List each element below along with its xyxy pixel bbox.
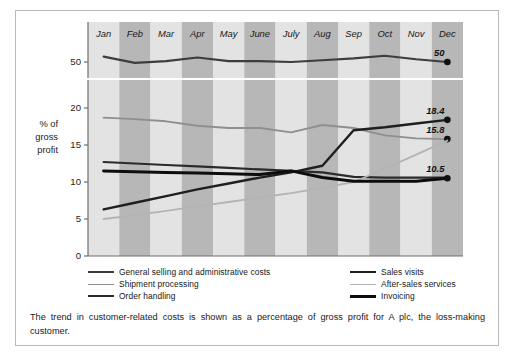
month-label-dec: Dec: [439, 28, 456, 39]
legend-item-order-handling: Order handling: [88, 290, 350, 302]
month-label-july: July: [282, 28, 301, 39]
month-band-main: [151, 80, 182, 256]
legend-swatch-line-icon: [88, 295, 114, 297]
series-endpoint-general-selling-and-administrative-costs: [444, 59, 451, 66]
y-tick-label-5: 5: [76, 213, 81, 224]
y-tick-label-50: 50: [70, 56, 81, 67]
y-tick-label-10: 10: [70, 176, 81, 187]
y-axis-title-line-2: gross: [35, 132, 58, 142]
y-axis-ticks: 5020151050: [70, 56, 88, 261]
legend-swatch-line-icon: [88, 271, 114, 273]
series-end-label-sales-visits: 18.4: [426, 105, 445, 116]
month-band-main: [276, 80, 307, 256]
legend-label: After-sales services: [381, 278, 456, 290]
legend-swatch-line-icon: [350, 284, 376, 285]
legend-item-after-sales-services: After-sales services: [350, 278, 468, 290]
y-tick-label-20: 20: [70, 102, 81, 113]
legend-swatch-line-icon: [350, 271, 376, 273]
legend-swatch-line-icon: [350, 295, 376, 298]
month-bands: [88, 22, 463, 256]
series-end-label-shipment-processing: 15.8: [426, 124, 445, 135]
month-label-mar: Mar: [158, 28, 175, 39]
month-label-may: May: [220, 28, 239, 39]
series-endpoint-invoicing: [444, 175, 451, 182]
month-label-nov: Nov: [408, 28, 426, 39]
legend-label: Shipment processing: [119, 278, 199, 290]
month-label-sep: Sep: [345, 28, 362, 39]
legend-item-sales-visits: Sales visits: [350, 266, 468, 278]
series-end-label-invoicing: 10.5: [426, 163, 445, 174]
legend-item-invoicing: Invoicing: [350, 290, 468, 302]
figure-root: JanFebMarAprMayJuneJulyAugSepOctNovDec50…: [0, 0, 515, 359]
month-band-main: [88, 80, 119, 256]
month-band-main: [119, 80, 150, 256]
y-axis-title-line-1: % of: [39, 119, 58, 129]
legend-label: Sales visits: [381, 266, 424, 278]
legend-swatch-line-icon: [88, 284, 114, 285]
legend-label: Invoicing: [381, 290, 415, 302]
y-axis-title: % ofgrossprofit: [35, 119, 58, 155]
legend-item-shipment-processing: Shipment processing: [88, 278, 350, 290]
month-band-main: [338, 80, 369, 256]
chart-legend: General selling and administrative costs…: [88, 266, 468, 302]
chart-area: JanFebMarAprMayJuneJulyAugSepOctNovDec50…: [0, 0, 515, 300]
legend-label: Order handling: [119, 290, 176, 302]
y-tick-label-15: 15: [70, 139, 81, 150]
series-end-label-general-selling-and-administrative-costs: 50: [434, 47, 445, 58]
month-label-apr: Apr: [189, 28, 205, 39]
series-endpoint-sales-visits: [444, 117, 451, 124]
month-label-feb: Feb: [127, 28, 143, 39]
line-chart: JanFebMarAprMayJuneJulyAugSepOctNovDec50…: [0, 0, 515, 300]
legend-item-general-selling-and-administrative-costs: General selling and administrative costs: [88, 266, 350, 278]
caption-text: The trend in customer-related costs is s…: [30, 312, 485, 336]
month-label-oct: Oct: [378, 28, 393, 39]
month-label-jan: Jan: [95, 28, 111, 39]
legend-label: General selling and administrative costs: [119, 266, 270, 278]
y-axis-title-line-3: profit: [37, 145, 58, 155]
y-tick-label-0: 0: [76, 250, 81, 261]
month-label-june: June: [249, 28, 270, 39]
month-label-aug: Aug: [313, 28, 331, 39]
figure-caption: The trend in customer-related costs is s…: [30, 310, 485, 338]
